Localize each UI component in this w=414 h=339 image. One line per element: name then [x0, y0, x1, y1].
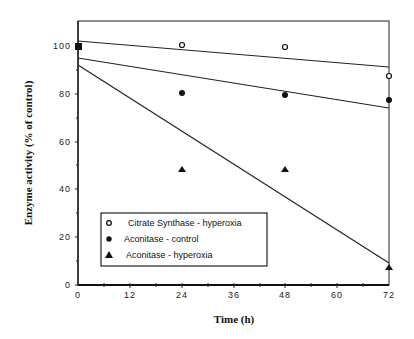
legend-label-citrate-synthase: Citrate Synthase - hyperoxia — [128, 218, 242, 228]
y-axis-label: Enzyme activity (% of control) — [22, 80, 35, 225]
x-tick-24: 24 — [176, 290, 188, 300]
y-tick-100: 100 — [53, 41, 71, 51]
x-tick-36: 36 — [228, 290, 240, 300]
series-citrate-synthase-hyperoxia — [180, 43, 392, 79]
chart: 0 20 40 60 80 100 0 12 24 36 48 60 72 Ti… — [0, 0, 414, 339]
x-tick-60: 60 — [331, 290, 343, 300]
x-tick-12: 12 — [124, 290, 136, 300]
x-tick-labels: 0 12 24 36 48 60 72 — [75, 290, 395, 300]
x-tick-72: 72 — [383, 290, 395, 300]
y-tick-40: 40 — [59, 184, 71, 194]
y-tick-60: 60 — [59, 137, 71, 147]
x-tick-48: 48 — [279, 290, 291, 300]
fit-line-aconitase-control — [78, 58, 389, 108]
open-circle-icon — [107, 221, 112, 226]
filled-circle-icon — [106, 236, 111, 241]
legend-label-aconitase-control: Aconitase - control — [124, 234, 199, 244]
y-tick-80: 80 — [59, 89, 71, 99]
legend: Citrate Synthase - hyperoxia Aconitase -… — [101, 213, 267, 266]
legend-label-aconitase-hyperoxia: Aconitase - hyperoxia — [126, 250, 213, 260]
fit-line-citrate-synthase-hyperoxia — [78, 41, 389, 67]
point-0h-all-series — [75, 43, 82, 50]
y-tick-0: 0 — [65, 280, 71, 290]
x-tick-0: 0 — [75, 290, 81, 300]
y-tick-labels: 0 20 40 60 80 100 — [53, 41, 71, 290]
y-tick-20: 20 — [59, 232, 71, 242]
x-axis-label: Time (h) — [214, 313, 255, 326]
